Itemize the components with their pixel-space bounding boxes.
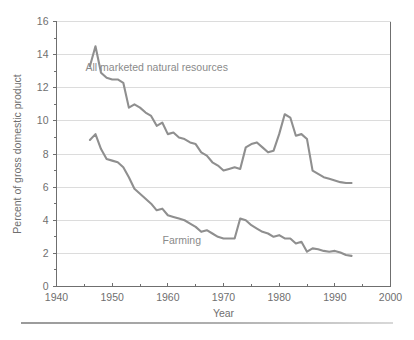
y-tick-label-12: 12 xyxy=(37,81,49,93)
y-tick-label-4: 4 xyxy=(43,214,49,226)
series-line-farming xyxy=(90,134,352,256)
y-tick-label-10: 10 xyxy=(37,114,49,126)
bottom-divider-rule xyxy=(21,322,393,324)
x-tick-labels-group: 1940195019601970198019902000 xyxy=(45,291,403,303)
x-tick-label-1980: 1980 xyxy=(267,291,291,303)
y-tick-label-6: 6 xyxy=(43,181,49,193)
line-chart: 0246810121416 19401950196019701980199020… xyxy=(0,0,414,340)
annotation-farming: Farming xyxy=(162,234,201,246)
x-axis-title: Year xyxy=(213,307,235,319)
y-tick-label-2: 2 xyxy=(43,247,49,259)
y-tick-label-16: 16 xyxy=(37,15,49,27)
x-tick-label-1960: 1960 xyxy=(156,291,180,303)
y-axis-title: Percent of gross domestic product xyxy=(11,74,23,233)
x-tick-label-2000: 2000 xyxy=(379,291,403,303)
annotation-all-marketed-natural-resources: All marketed natural resources xyxy=(85,61,227,73)
series-group xyxy=(90,46,352,256)
x-tick-label-1990: 1990 xyxy=(323,291,347,303)
y-tick-label-14: 14 xyxy=(37,48,49,60)
x-tick-label-1940: 1940 xyxy=(45,291,69,303)
x-tick-label-1970: 1970 xyxy=(212,291,236,303)
y-tick-label-8: 8 xyxy=(43,148,49,160)
chart-figure: 0246810121416 19401950196019701980199020… xyxy=(0,0,414,340)
y-tick-labels-group: 0246810121416 xyxy=(37,15,49,292)
x-tick-label-1950: 1950 xyxy=(100,291,124,303)
gridlines-group xyxy=(57,22,391,254)
